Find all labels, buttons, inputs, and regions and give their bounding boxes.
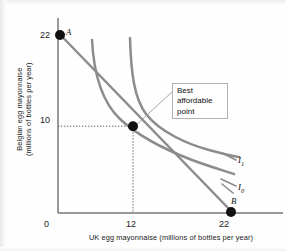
callout-line-3: point bbox=[177, 107, 227, 117]
curve-label-i1-sub: 1 bbox=[241, 160, 244, 167]
data-point-a bbox=[55, 30, 65, 40]
chart-figure: Belgian egg mayonnaise (millions of bott… bbox=[0, 0, 285, 251]
x-tick-label-12: 12 bbox=[126, 219, 136, 229]
b-point-leader-line bbox=[222, 184, 233, 193]
data-point-best-affordable bbox=[128, 121, 138, 131]
best-affordable-point-callout: Best affordable point bbox=[172, 83, 228, 119]
y-tick-label-10: 10 bbox=[40, 115, 50, 125]
callout-line-2: affordable bbox=[177, 96, 227, 106]
y-axis-title-line1: Belgian egg mayonnaise bbox=[15, 39, 24, 179]
y-axis-title: Belgian egg mayonnaise (millions of bott… bbox=[15, 39, 33, 179]
data-point-b bbox=[226, 207, 236, 217]
point-label-b: B bbox=[231, 196, 236, 206]
callout-line-1: Best bbox=[177, 86, 227, 96]
curve-label-i0-sub: 0 bbox=[241, 187, 244, 194]
y-axis-title-line2: (millions of bottles per year) bbox=[24, 39, 33, 179]
y-tick-label-22: 22 bbox=[40, 30, 50, 40]
x-axis-title: UK egg mayonnaise (millions of bottles p… bbox=[60, 233, 282, 242]
x-tick-label-22: 22 bbox=[219, 219, 229, 229]
curve-label-i0: I0 bbox=[238, 182, 244, 194]
x-tick-label-0: 0 bbox=[44, 219, 49, 229]
curve-label-i1: I1 bbox=[238, 155, 244, 167]
point-label-a: A bbox=[66, 27, 71, 37]
budget-line bbox=[61, 35, 233, 212]
